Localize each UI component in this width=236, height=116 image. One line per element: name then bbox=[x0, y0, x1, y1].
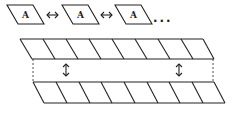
cell-label: A bbox=[129, 10, 138, 20]
dashed-connector bbox=[33, 59, 213, 82]
double-arrow-horizontal-icon bbox=[101, 12, 112, 18]
double-arrow-horizontal-icon bbox=[47, 12, 58, 18]
bottom-band bbox=[33, 82, 225, 103]
double-arrow-vertical-icon bbox=[176, 64, 182, 76]
double-arrow-vertical-icon bbox=[63, 64, 69, 76]
cell-label: A bbox=[76, 10, 85, 20]
diagram-canvas: A A A ... bbox=[0, 0, 236, 116]
top-band bbox=[20, 39, 214, 59]
cell-label: A bbox=[21, 10, 30, 20]
ellipsis: ... bbox=[153, 11, 173, 25]
